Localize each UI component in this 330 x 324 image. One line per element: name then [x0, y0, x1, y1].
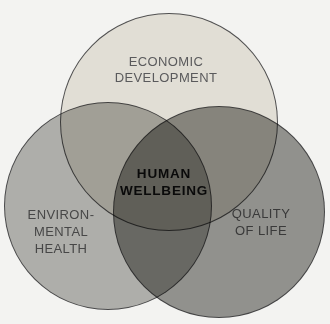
label-economic-development: ECONOMIC DEVELOPMENT — [115, 54, 218, 86]
venn-diagram: ECONOMIC DEVELOPMENT ENVIRON- MENTAL HEA… — [0, 0, 330, 324]
label-quality-of-life: QUALITY OF LIFE — [232, 205, 290, 239]
label-environmental-health: ENVIRON- MENTAL HEALTH — [28, 206, 95, 257]
label-human-wellbeing: HUMAN WELLBEING — [120, 165, 208, 199]
circle-quality-of-life — [113, 106, 325, 318]
